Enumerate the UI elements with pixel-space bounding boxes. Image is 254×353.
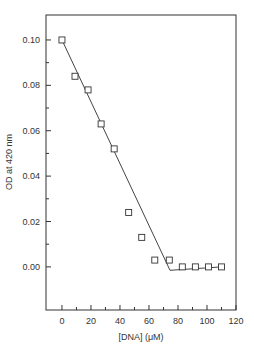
x-tick-label: 80 [173,316,183,326]
y-axis-label: OD at 420 nm [4,134,14,190]
square-marker [166,257,172,263]
y-tick-label: 0.06 [22,126,40,136]
square-marker [111,146,117,152]
square-marker [72,73,78,79]
x-tick-label: 100 [199,316,214,326]
square-marker [192,264,198,270]
y-tick-label: 0.10 [22,35,40,45]
square-marker [126,209,132,215]
square-marker [218,264,224,270]
x-tick-label: 0 [59,316,64,326]
square-marker [205,264,211,270]
x-tick-label: 20 [86,316,96,326]
x-axis-label: [DNA] (μM) [118,332,163,342]
y-tick-label: 0.08 [22,80,40,90]
y-tick-label: 0.00 [22,262,40,272]
square-marker [139,234,145,240]
square-marker [85,87,91,93]
y-tick-label: 0.02 [22,217,40,227]
square-marker [98,121,104,127]
square-marker [152,257,158,263]
x-tick-label: 40 [115,316,125,326]
x-tick-label: 60 [144,316,154,326]
square-marker [179,264,185,270]
x-tick-label: 120 [228,316,243,326]
y-tick-label: 0.04 [22,171,40,181]
chart: 020406080100120 0.000.020.040.060.080.10… [0,0,254,353]
y-axis-ticks: 0.000.020.040.060.080.10 [22,35,51,272]
x-axis-ticks: 020406080100120 [59,305,243,326]
data-markers [59,37,225,270]
square-marker [59,37,65,43]
